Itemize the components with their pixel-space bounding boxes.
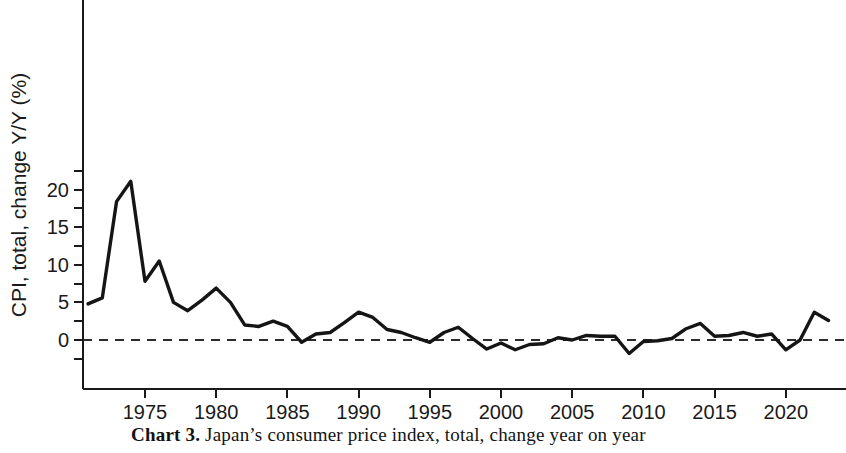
svg-text:1975: 1975 [123,401,168,420]
data-series-line [88,181,828,353]
x-tick-labels: 1975198019851990199520002005201020152020 [123,401,808,420]
line-chart-plot: 05101520 1975198019851990199520002005201… [0,0,846,420]
svg-text:0: 0 [58,329,69,351]
svg-text:2020: 2020 [764,401,809,420]
svg-text:2010: 2010 [621,401,666,420]
svg-text:CPI, total, change Y/Y (%): CPI, total, change Y/Y (%) [7,73,30,317]
svg-text:10: 10 [47,254,69,276]
svg-text:20: 20 [47,179,69,201]
svg-text:2000: 2000 [479,401,524,420]
svg-text:1995: 1995 [408,401,453,420]
svg-text:1990: 1990 [336,401,381,420]
svg-text:2015: 2015 [692,401,737,420]
svg-text:2005: 2005 [550,401,595,420]
x-tick-marks [145,389,786,398]
caption-text: Japan’s consumer price index, total, cha… [205,424,646,445]
chart-figure: 05101520 1975198019851990199520002005201… [0,0,846,453]
figure-caption: Chart 3. Japan’s consumer price index, t… [0,424,846,453]
svg-text:5: 5 [58,291,69,313]
svg-text:15: 15 [47,216,69,238]
y-axis-title: CPI, total, change Y/Y (%) [7,73,30,317]
y-tick-marks [74,190,83,340]
svg-text:1985: 1985 [265,401,310,420]
caption-label: Chart 3. [131,424,200,445]
y-tick-labels: 05101520 [47,179,69,351]
svg-text:1980: 1980 [194,401,239,420]
